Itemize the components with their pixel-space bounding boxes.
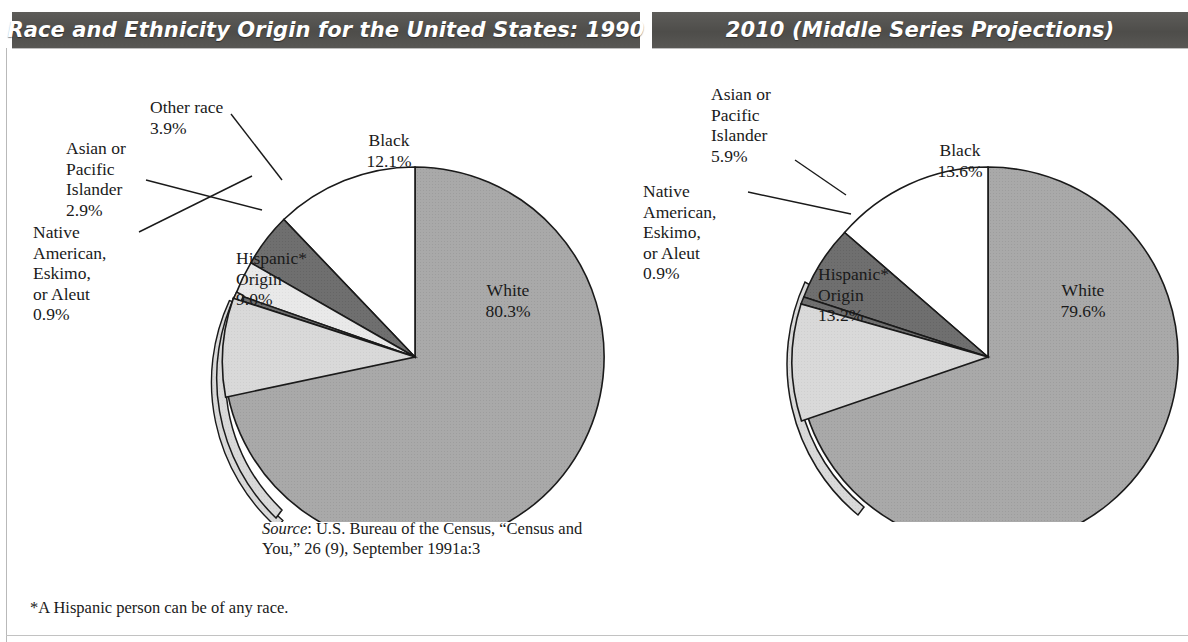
pie-chart-2010: [748, 160, 1178, 522]
label-white-1990: White 80.3%: [453, 280, 563, 321]
label-hispanic-1990: Hispanic* Origin 9.0%: [236, 248, 307, 310]
banner-right-2010: 2010 (Middle Series Projections): [652, 12, 1188, 48]
source-label: Source: [262, 519, 307, 538]
source-citation: Source: U.S. Bureau of the Census, “Cens…: [262, 519, 607, 559]
label-black-1990: Black 12.1%: [334, 130, 444, 171]
label-black-2010: Black 13.6%: [905, 140, 1015, 181]
source-text: : U.S. Bureau of the Census, “Census and…: [262, 519, 582, 558]
page-border-bottom: [6, 635, 1188, 636]
callout-native-1990: [139, 176, 252, 232]
label-native-1990: Native American, Eskimo, or Aleut 0.9%: [33, 222, 106, 325]
banner-right-title: 2010 (Middle Series Projections): [726, 18, 1115, 42]
callout-asian-1990: [146, 180, 262, 210]
label-hispanic-2010: Hispanic* Origin 13.2%: [818, 264, 889, 326]
label-native-2010: Native American, Eskimo, or Aleut 0.9%: [643, 181, 716, 284]
label-white-2010: White 79.6%: [1028, 280, 1138, 321]
callout-lines-2010: [748, 160, 851, 214]
callout-native-2010: [748, 192, 851, 214]
callout-other-race-1990: [231, 114, 282, 180]
charts-area: Other race 3.9% Asian or Pacific Islande…: [0, 52, 1188, 522]
callout-asian-2010: [795, 160, 846, 195]
label-other-race-1990: Other race 3.9%: [150, 97, 223, 138]
label-asian-2010: Asian or Pacific Islander 5.9%: [711, 84, 771, 166]
label-asian-1990: Asian or Pacific Islander 2.9%: [66, 138, 126, 220]
figure-page: Race and Ethnicity Origin for the United…: [0, 0, 1188, 642]
footnote-hispanic: *A Hispanic person can be of any race.: [30, 598, 288, 618]
header-banners: Race and Ethnicity Origin for the United…: [0, 12, 1188, 48]
banner-left-1990: Race and Ethnicity Origin for the United…: [12, 12, 640, 48]
banner-left-title: Race and Ethnicity Origin for the United…: [7, 18, 644, 42]
